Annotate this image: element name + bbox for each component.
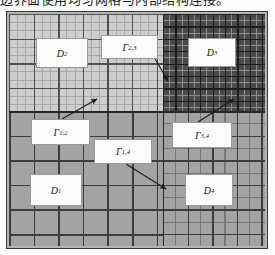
caption-text: 边界面使用均匀网格与内部结构连接。 (0, 0, 275, 9)
d2-symbol: D (57, 48, 64, 59)
region-label-d1: D1 (30, 174, 82, 206)
interface-label-gamma-1-4: Γ1,4 (94, 139, 152, 164)
g14-subscript: 1,4 (122, 148, 130, 155)
region-label-d3: D3 (188, 38, 236, 67)
d2-subscript: 2 (64, 50, 67, 57)
interface-label-gamma-2-3: Γ2,3 (101, 35, 158, 59)
g12-subscript: 1,2 (59, 129, 67, 136)
g23-subscript: 2,3 (128, 44, 136, 51)
d4-subscript: 4 (211, 187, 214, 194)
interface-label-gamma-3-4: Γ3,4 (172, 122, 232, 148)
region-label-d4: D4 (185, 174, 233, 206)
horizontal-interface-line (9, 111, 265, 113)
g34-subscript: 3,4 (201, 132, 209, 139)
d3-subscript: 3 (214, 49, 217, 56)
region-label-d2: D2 (36, 38, 88, 68)
figure-page: 边界面使用均匀网格与内部结构连接。 (0, 0, 275, 255)
d4-symbol: D (204, 185, 211, 196)
vertical-interface-line (163, 14, 165, 246)
d3-symbol: D (207, 47, 214, 58)
d1-subscript: 1 (58, 187, 61, 194)
interface-label-gamma-1-2: Γ1,2 (31, 119, 90, 145)
d1-symbol: D (51, 185, 58, 196)
